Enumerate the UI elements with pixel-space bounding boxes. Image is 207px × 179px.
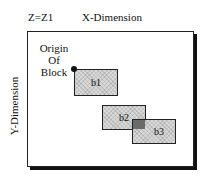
origin-label-line-2: Of [36,54,72,66]
z-plane-label: Z=Z1 [28,11,53,23]
block-b1-label: b1 [91,77,101,88]
block-b1: b1 [74,69,118,96]
y-dimension-label: Y-Dimension [8,64,20,148]
block-b3-label: b3 [154,126,164,137]
block-b2-label: b2 [119,112,129,123]
x-dimension-label: X-Dimension [82,11,142,23]
origin-label-line-3: Block [36,66,72,78]
origin-of-block-label: Origin Of Block [36,42,72,78]
origin-label-line-1: Origin [36,42,72,54]
origin-dot-icon [71,66,77,72]
overlap-region-b2-b3 [133,120,145,129]
